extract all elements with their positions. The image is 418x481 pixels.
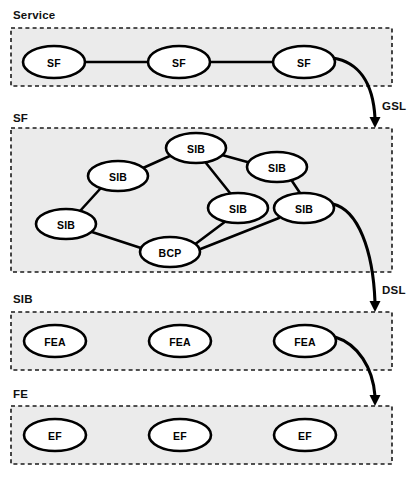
diagram-root: ServiceSFSFSFSFSIBSIBSIBSIBSIBSIBBCPSIBF… [0,0,418,481]
layer-label-fe: FE [13,388,28,400]
node-fea-1[interactable]: FEA [24,325,86,357]
node-ef-2[interactable]: EF [149,419,211,451]
flow-label-gsl: GSL [382,100,406,112]
node-bcp[interactable]: BCP [140,237,200,267]
node-sf-2[interactable]: SF [148,46,210,78]
layer-label-sf: SF [13,112,28,124]
node-label-sib-mid: SIB [229,203,247,215]
node-label-fea-2: FEA [169,336,191,348]
node-ef-3[interactable]: EF [274,419,336,451]
node-label-fea-1: FEA [44,336,66,348]
node-label-fea-3: FEA [294,336,316,348]
node-fea-3[interactable]: FEA [274,325,336,357]
flow-arrowhead-fea-to-fe [370,395,381,406]
node-sib-top[interactable]: SIB [166,133,226,163]
node-label-sib-left: SIB [57,219,75,231]
node-label-ef-2: EF [173,430,187,442]
node-sib-left[interactable]: SIB [36,209,96,239]
node-label-sib-right: SIB [295,203,313,215]
node-label-sib-upper-left: SIB [109,171,127,183]
node-sib-mid[interactable]: SIB [208,193,268,223]
node-fea-2[interactable]: FEA [149,325,211,357]
layer-label-service: Service [13,9,55,21]
layers-group: ServiceSFSFSFSFSIBSIBSIBSIBSIBSIBBCPSIBF… [11,9,392,464]
layered-service-diagram: ServiceSFSFSFSFSIBSIBSIBSIBSIBSIBBCPSIBF… [0,0,418,481]
node-label-bcp: BCP [159,247,182,259]
node-sib-upper-right[interactable]: SIB [247,152,307,182]
node-sf-3[interactable]: SF [273,46,335,78]
node-ef-1[interactable]: EF [24,419,86,451]
node-label-sib-upper-right: SIB [268,162,286,174]
layer-sib: SIBFEAFEAFEA [11,293,392,370]
layer-sf: SFSIBSIBSIBSIBSIBSIBBCP [11,112,392,272]
node-label-sf-3: SF [297,57,311,69]
layer-label-sib: SIB [13,293,33,305]
flow-arrowhead-dsl [370,301,381,312]
node-sf-1[interactable]: SF [23,46,85,78]
node-label-sf-1: SF [47,57,61,69]
node-label-sib-top: SIB [187,143,205,155]
layer-fe: FEEFEFEF [11,388,392,464]
flow-label-dsl: DSL [382,284,406,296]
node-label-sf-2: SF [172,57,186,69]
node-label-ef-1: EF [48,430,62,442]
layer-service: ServiceSFSFSF [11,9,392,86]
flow-arrowhead-gsl [370,117,381,128]
node-sib-upper-left[interactable]: SIB [88,161,148,191]
node-label-ef-3: EF [298,430,312,442]
node-sib-right[interactable]: SIB [274,193,334,223]
